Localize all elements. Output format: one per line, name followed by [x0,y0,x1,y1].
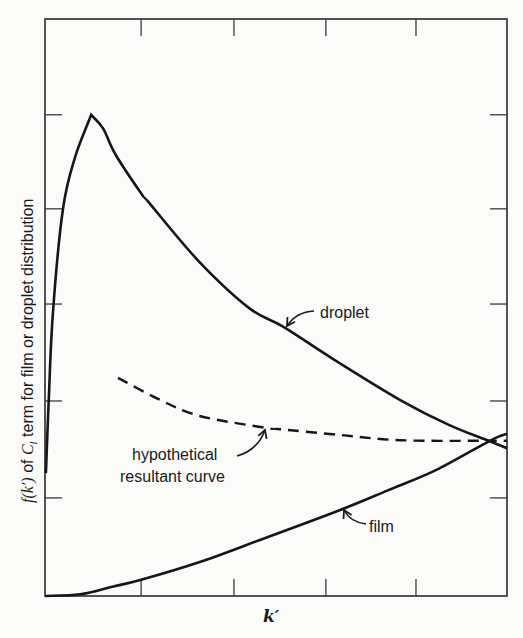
hypothetical-resultant-curve-curve [118,378,507,441]
data-series [45,115,507,596]
hypothetical-label-line1: hypothetical [132,446,217,463]
hypothetical-label-line2: resultant curve [120,468,225,485]
axis-ticks [45,19,507,596]
film-curve [45,434,507,596]
chart: droplet film hypothetical resultant curv… [0,0,523,638]
y-axis-label-rest: term for film or droplet distribution [19,199,36,442]
x-axis-label: k′ [263,606,280,626]
film-annotation-arrow [344,510,366,524]
hypothetical-annotation-arrow [237,430,265,456]
droplet-label: droplet [320,304,369,321]
droplet-curve [46,115,507,473]
y-axis-label: f(k′) of Cl term for film or droplet dis… [19,199,39,503]
y-axis-label-of: of [19,455,36,477]
film-label: film [369,518,394,535]
droplet-annotation-arrow [287,311,314,326]
y-axis-label-coefficient: C [19,444,36,455]
plot-frame [45,19,507,596]
y-axis-label-function: f(k′) [19,477,37,503]
